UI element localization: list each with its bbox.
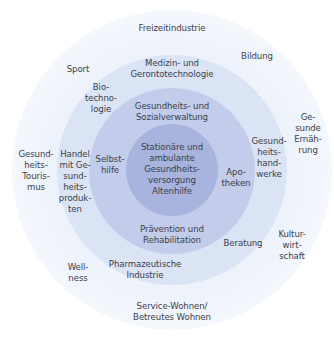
label-bildung: Bildung [232,51,282,62]
label-beratung: Beratung [218,238,268,249]
label-praevention-rehabilitation: Prävention und Rehabilitation [122,224,222,246]
label-gesundheits-sozialverwaltung: Gesundheits- und Sozialverwaltung [122,101,222,123]
label-gesundheitshandwerke: Gesund- heits- hand- werke [247,136,291,180]
label-service-wohnen: Service-Wohnen/ Betreutes Wohnen [122,301,222,323]
label-sport: Sport [58,64,98,75]
label-kulturwirtschaft: Kultur- wirt- schaft [270,229,314,262]
label-wellness: Well- ness [58,262,98,284]
label-medizin-gerontotechnologie: Medizin- und Gerontotechnologie [120,58,224,80]
label-biotechnologie: Bio- techno- logie [82,82,120,115]
health-economy-onion-diagram: Stationäre und ambulante Gesundheits- ve… [0,0,334,339]
core-label: Stationäre und ambulante Gesundheits- ve… [126,142,218,197]
label-gesunde-ernaehrung: Ge- sunde Ernäh- rung [288,112,328,156]
label-handel-gesundheitsprodukte: Handel mit Ge- sund- heits- produk- ten [56,149,94,215]
label-selbsthilfe: Selbst- hilfe [92,154,128,176]
label-pharmazeutische-industrie: Pharmazeutische Industrie [102,259,188,281]
label-freizeitindustrie: Freizeitindustrie [122,23,222,34]
label-gesundheitstourismus: Gesund- heits- Touris- mus [16,149,56,193]
